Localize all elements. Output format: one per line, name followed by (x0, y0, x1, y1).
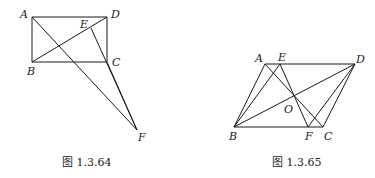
geometry-figures: ADEBCF AEDOBFC (0, 0, 375, 178)
point-label-C: C (112, 56, 121, 69)
point-label-A: A (19, 8, 28, 21)
segment-AB (234, 64, 265, 127)
segment-BE (234, 64, 280, 127)
point-label-F: F (137, 131, 146, 144)
caption-figure-1-3-64: 图 1.3.64 (62, 153, 111, 169)
point-label-E: E (277, 51, 286, 64)
segment-EF (280, 64, 308, 127)
segment-CD (323, 64, 355, 127)
segment-DF (308, 64, 355, 127)
point-label-D: D (355, 53, 365, 66)
point-label-B: B (228, 130, 237, 143)
segment-CF (107, 62, 137, 130)
figure-1-3-64: ADEBCF (19, 8, 146, 144)
segment-AF (32, 17, 137, 130)
point-label-C: C (324, 130, 333, 143)
figure-1-3-65: AEDOBFC (228, 51, 365, 143)
point-label-B: B (26, 65, 35, 78)
caption-figure-1-3-65: 图 1.3.65 (272, 153, 321, 169)
point-label-E: E (79, 18, 88, 31)
point-label-F: F (304, 130, 313, 143)
point-label-D: D (110, 8, 120, 21)
point-label-A: A (254, 52, 263, 65)
point-label-O: O (284, 103, 293, 116)
